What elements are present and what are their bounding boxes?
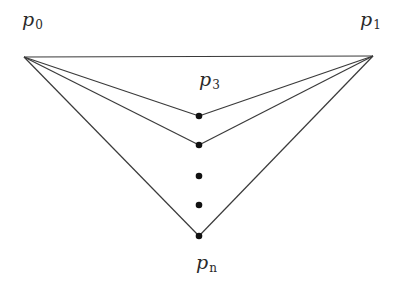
label-p0: p0 xyxy=(22,10,43,31)
label-pn-sub: n xyxy=(209,261,217,275)
edge-line xyxy=(24,57,199,236)
label-p1-base: p xyxy=(360,8,372,30)
edge-line xyxy=(24,57,199,145)
diagram-canvas xyxy=(0,0,406,287)
edge-line xyxy=(24,56,373,57)
point-dot xyxy=(196,173,203,180)
edge-line xyxy=(199,56,373,145)
point-dot xyxy=(196,202,203,209)
label-p1: p1 xyxy=(360,10,381,31)
label-p0-base: p xyxy=(22,8,34,30)
dots xyxy=(196,113,203,240)
label-p1-sub: 1 xyxy=(373,18,381,32)
label-p3: p3 xyxy=(199,70,220,91)
point-dot xyxy=(196,113,203,120)
edge-line xyxy=(199,56,373,116)
label-p3-base: p xyxy=(199,68,211,90)
point-dot xyxy=(196,233,203,240)
edge-line xyxy=(199,56,373,236)
label-pn-base: p xyxy=(196,251,208,273)
edge-line xyxy=(24,57,199,116)
label-p0-sub: 0 xyxy=(35,18,43,32)
point-dot xyxy=(196,142,203,149)
label-pn: pn xyxy=(196,253,217,274)
label-p3-sub: 3 xyxy=(212,78,220,92)
